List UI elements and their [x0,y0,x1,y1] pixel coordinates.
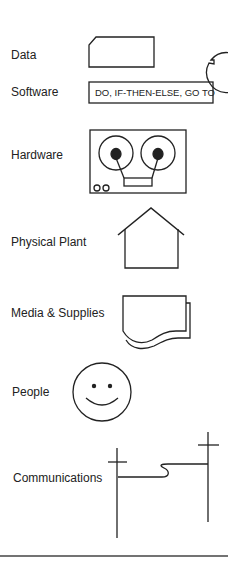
software-box-text: DO, IF-THEN-ELSE, GO TO [95,87,215,98]
smiley-face-icon [73,363,131,421]
telephone-poles-icon [108,432,219,538]
data-card-icon [89,37,154,67]
software-box-icon: DO, IF-THEN-ELSE, GO TO [89,82,215,103]
tape-recorder-icon [90,130,186,193]
house-icon [118,208,184,268]
media-supplies-icon [123,296,190,348]
